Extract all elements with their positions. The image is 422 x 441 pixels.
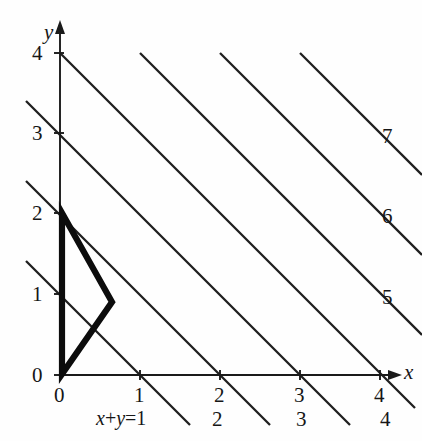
- y-tick-label-3: 3: [32, 123, 43, 144]
- x-axis-label: x: [404, 362, 413, 383]
- y-axis-arrowhead: [55, 20, 65, 34]
- eq-op-plus: +: [105, 407, 116, 429]
- feasible-region-outline: [62, 213, 112, 374]
- y-tick-label-2: 2: [32, 203, 43, 224]
- level-line-c5: [140, 53, 422, 335]
- axis-group: [54, 20, 402, 380]
- level-line-label-c7: 7: [382, 126, 393, 147]
- figure-root: y x 4 3 2 1 0 0 1 2 3 4 x+y=1 2 3 4 5 6 …: [0, 0, 422, 441]
- x-tick-label-2: 2: [214, 385, 225, 406]
- x-axis-arrowhead: [388, 370, 402, 380]
- level-line-label-c4: 4: [380, 409, 391, 430]
- x-tick-label-4: 4: [374, 385, 385, 406]
- level-line-label-c2: 2: [212, 409, 223, 430]
- y-tick-label-1: 1: [32, 284, 43, 305]
- level-line-label-c1: x+y=1: [96, 408, 146, 428]
- level-line-label-c3: 3: [296, 409, 307, 430]
- plot-canvas: [0, 0, 422, 441]
- eq-term-x: x: [96, 407, 105, 429]
- x-tick-label-0: 0: [54, 385, 65, 406]
- eq-op-equals: =: [125, 407, 136, 429]
- level-line-c4: [60, 53, 415, 408]
- y-tick-label-4: 4: [32, 43, 43, 64]
- x-tick-label-3: 3: [294, 385, 305, 406]
- y-axis-label: y: [44, 22, 53, 43]
- eq-rhs: 1: [136, 407, 146, 429]
- level-line-c3: [26, 101, 350, 425]
- y-tick-label-0: 0: [32, 365, 43, 386]
- level-curve-group: [26, 53, 422, 425]
- level-line-label-c5: 5: [382, 287, 393, 308]
- eq-term-y: y: [116, 407, 125, 429]
- level-line-c1: [26, 261, 190, 425]
- level-line-label-c6: 6: [382, 206, 393, 227]
- level-line-c7: [300, 53, 422, 175]
- x-tick-label-1: 1: [134, 385, 145, 406]
